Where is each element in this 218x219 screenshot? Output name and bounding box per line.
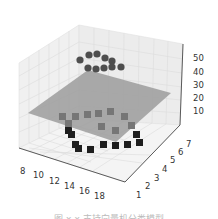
svg-text:5: 5 xyxy=(170,155,175,165)
svg-text:2: 2 xyxy=(145,181,150,191)
svg-text:40: 40 xyxy=(193,67,204,77)
svg-text:20: 20 xyxy=(193,93,204,103)
svg-text:10: 10 xyxy=(33,170,44,180)
svg-text:3: 3 xyxy=(154,173,159,183)
svg-text:18: 18 xyxy=(94,191,105,201)
svg-text:50: 50 xyxy=(193,53,204,63)
figure-caption: 图 x-x 支持向量机分类模型 xyxy=(0,212,218,219)
svg-text:16: 16 xyxy=(79,186,90,196)
svg-text:1: 1 xyxy=(136,190,141,200)
svg-text:14: 14 xyxy=(64,181,75,191)
svg-text:10: 10 xyxy=(193,106,204,116)
svg-text:4: 4 xyxy=(162,164,167,174)
svg-text:6: 6 xyxy=(178,147,183,157)
svg-text:30: 30 xyxy=(193,80,204,90)
3d-scatter-chart: 8 10 12 14 16 18 1 2 3 4 5 6 7 10 20 30 … xyxy=(0,0,218,219)
svg-text:12: 12 xyxy=(49,176,60,186)
z-axis-ticks: 10 20 30 40 50 xyxy=(193,53,204,116)
svg-text:8: 8 xyxy=(20,166,25,176)
svg-text:7: 7 xyxy=(186,139,191,149)
